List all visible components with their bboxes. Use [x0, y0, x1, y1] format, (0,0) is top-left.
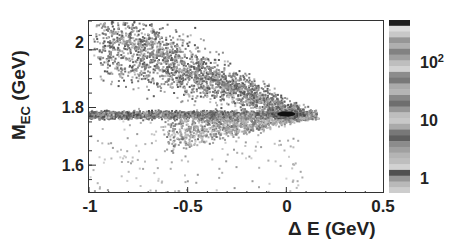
heatmap-canvas — [89, 21, 384, 193]
x-tick-label: 0.5 — [358, 197, 408, 217]
x-tick-label: -1 — [65, 197, 115, 217]
y-axis-label-unit: (GeV) — [8, 50, 29, 101]
y-tick-label: 1.8 — [44, 99, 84, 117]
colorbar-label: 1 — [420, 170, 429, 188]
colorbar-label: 102 — [420, 52, 444, 72]
x-tick-label: 0 — [262, 197, 312, 217]
y-axis-label-main: M — [8, 124, 29, 140]
color-scale-bar — [389, 20, 410, 193]
colorbar-label: 10 — [420, 112, 438, 130]
y-tick-label: 1.6 — [44, 157, 84, 175]
y-axis-label: MEC (GeV) — [8, 50, 33, 140]
x-axis-label: Δ E (GeV) — [288, 218, 376, 240]
y-axis-label-sub: EC — [18, 106, 33, 124]
x-tick-label: -0.5 — [163, 197, 213, 217]
plot-area — [88, 20, 384, 193]
y-tick-label: 2 — [44, 34, 84, 52]
